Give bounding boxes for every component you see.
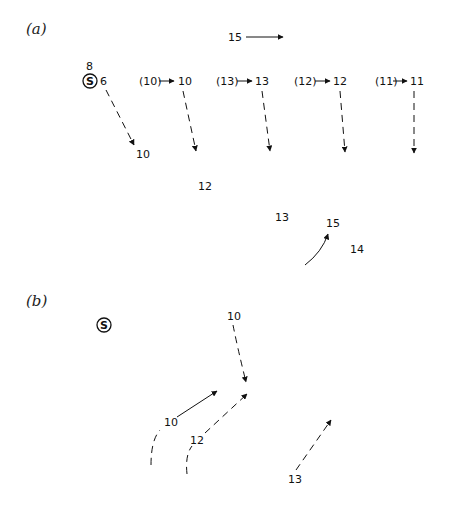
- panel-a: (a) 15 8 S 6 10 (10) 10 (13) 13 (12) 12: [26, 20, 424, 265]
- curved-arrow-15: [305, 234, 328, 265]
- scatter-15: 15: [326, 217, 340, 230]
- pair2-old: (10): [139, 75, 162, 88]
- pair4-new: 12: [333, 75, 347, 88]
- mid-track-dashed: [187, 446, 192, 474]
- pair3-new: 13: [255, 75, 269, 88]
- pair5-new: 11: [410, 75, 424, 88]
- left-track-arrow: [177, 391, 217, 417]
- mid-track-label: 12: [190, 434, 204, 447]
- storm-marker-b: S: [97, 318, 111, 332]
- storm-symbol-b: S: [100, 319, 108, 332]
- track-arrow-4: [340, 91, 345, 152]
- track1-end-label: 10: [136, 148, 150, 161]
- left-track-dashed: [151, 430, 160, 465]
- storm-side-value: 6: [100, 75, 107, 88]
- panel-b: (b) S 10 10 12 13: [26, 292, 331, 486]
- pair3-old: (13): [216, 75, 239, 88]
- mid-track-arrow: [205, 394, 247, 433]
- storm-top-value: 8: [86, 60, 93, 73]
- panel-b-label: (b): [26, 292, 47, 310]
- right-track-arrow: [296, 420, 331, 470]
- steering-vector: 15: [228, 31, 283, 44]
- scatter-14: 14: [350, 243, 364, 256]
- pair2-new: 10: [178, 75, 192, 88]
- top-cell-label: 10: [227, 310, 241, 323]
- storm-marker-a: 8 S 6: [83, 60, 107, 88]
- right-track-label: 13: [288, 473, 302, 486]
- panel-a-label: (a): [26, 20, 47, 38]
- diagram-canvas: (a) 15 8 S 6 10 (10) 10 (13) 13 (12) 12: [0, 0, 450, 522]
- left-track-label: 10: [164, 416, 178, 429]
- steering-speed-label: 15: [228, 31, 242, 44]
- track-arrow-3: [262, 91, 270, 151]
- scatter-13: 13: [275, 211, 289, 224]
- scatter-12: 12: [198, 180, 212, 193]
- track-arrow-1: [106, 90, 134, 145]
- track-arrow-2: [183, 91, 196, 151]
- storm-symbol: S: [86, 75, 94, 88]
- top-track-arrow: [233, 325, 246, 382]
- pair4-old: (12): [294, 75, 317, 88]
